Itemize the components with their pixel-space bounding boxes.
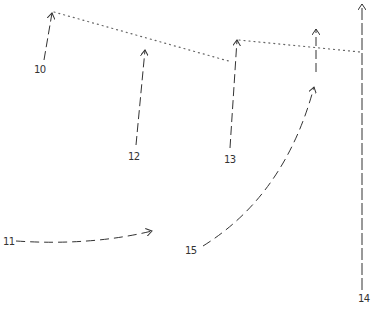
label-11: 11 xyxy=(3,236,15,247)
label-12: 12 xyxy=(128,151,140,162)
label-15: 15 xyxy=(185,245,197,256)
arrow-11 xyxy=(16,231,152,242)
label-10: 10 xyxy=(34,64,46,75)
dotted-connector-10-to-13 xyxy=(54,12,232,62)
arrow-12 xyxy=(136,50,145,145)
arrow-13 xyxy=(230,40,237,148)
arrow-10 xyxy=(44,13,52,60)
arrow-15 xyxy=(203,87,314,246)
label-14: 14 xyxy=(358,293,370,304)
diagram-canvas: 10 11 12 13 14 15 xyxy=(0,0,373,312)
label-13: 13 xyxy=(224,154,236,165)
dotted-connector-13-to-14 xyxy=(239,40,360,52)
